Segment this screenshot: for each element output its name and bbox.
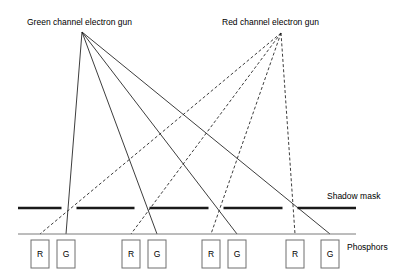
red-beam-group bbox=[40, 33, 295, 234]
red-electron-beam bbox=[131, 33, 281, 234]
phosphor-cell-label: G bbox=[234, 249, 241, 259]
phosphor-cell-label: G bbox=[327, 249, 334, 259]
phosphors-label: Phosphors bbox=[347, 242, 388, 252]
green-gun-label: Green channel electron gun bbox=[27, 17, 132, 27]
phosphor-cell-label: R bbox=[37, 249, 43, 259]
phosphor-cell-group: RGRGRGRG bbox=[31, 240, 339, 268]
red-electron-beam bbox=[40, 33, 281, 234]
green-electron-beam bbox=[82, 32, 237, 234]
crt-shadow-mask-diagram: RGRGRGRG bbox=[0, 0, 404, 278]
phosphor-cell-label: G bbox=[154, 249, 161, 259]
phosphor-cell-label: G bbox=[63, 249, 70, 259]
red-electron-beam bbox=[211, 33, 281, 234]
green-beam-group bbox=[66, 32, 330, 234]
phosphor-cell-label: R bbox=[128, 249, 134, 259]
red-gun-label: Red channel electron gun bbox=[222, 17, 319, 27]
shadow-mask-label: Shadow mask bbox=[327, 191, 380, 201]
phosphor-cell-label: R bbox=[292, 249, 298, 259]
green-electron-beam bbox=[66, 32, 82, 234]
diagram-canvas: RGRGRGRG Green channel electron gun Red … bbox=[0, 0, 404, 278]
phosphor-cell-label: R bbox=[208, 249, 214, 259]
